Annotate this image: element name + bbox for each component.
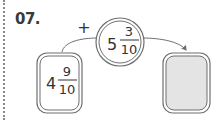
operand-circle: 5 3 10 (96, 18, 144, 66)
arrow-to-answer (142, 38, 186, 50)
plus-operator: + (77, 18, 90, 37)
operand-denominator: 10 (121, 42, 138, 57)
answer-box[interactable] (163, 53, 210, 113)
start-denominator: 10 (59, 82, 76, 97)
operand-numerator: 3 (125, 24, 133, 39)
addition-diagram: + 5 3 10 4 9 10 (0, 0, 224, 120)
start-numerator: 9 (63, 64, 71, 79)
operand-whole: 5 (107, 35, 117, 54)
connector-curve-left (62, 38, 98, 52)
start-value-box: 4 9 10 (37, 53, 82, 113)
start-whole: 4 (46, 74, 56, 93)
